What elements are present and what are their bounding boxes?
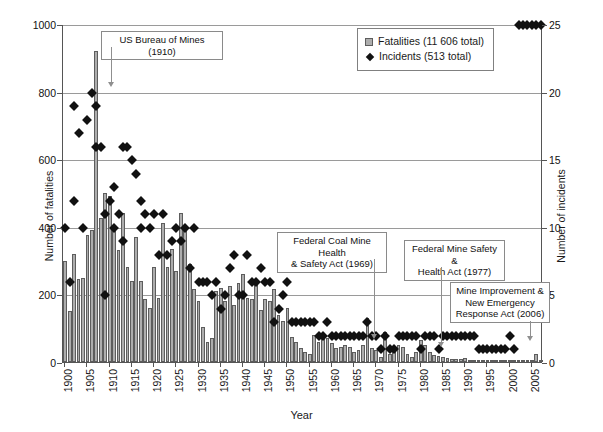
left-axis-tick-mark	[57, 160, 62, 161]
x-axis-tick-mark	[198, 363, 199, 367]
bar	[406, 354, 410, 362]
bar	[374, 350, 378, 362]
x-axis-tick-label: 1945	[262, 369, 274, 392]
data-point-marker	[145, 223, 155, 233]
left-axis-tick-mark	[57, 363, 62, 364]
x-axis-tick-label: 1985	[440, 369, 452, 392]
bar	[250, 299, 254, 362]
x-axis-tick-mark	[398, 363, 399, 367]
data-point-marker	[131, 169, 141, 179]
data-point-marker	[380, 331, 390, 341]
bar	[352, 352, 356, 362]
bar	[174, 271, 178, 362]
legend-item-incidents: Incidents (513 total)	[365, 49, 484, 64]
x-axis-tick-mark	[286, 363, 287, 367]
x-axis-tick-mark	[264, 363, 265, 367]
bar	[68, 311, 72, 362]
bar	[134, 237, 138, 362]
bar	[379, 357, 383, 362]
data-point-marker	[189, 223, 199, 233]
bar	[299, 348, 303, 362]
data-point-marker	[158, 209, 168, 219]
data-point-marker	[509, 345, 519, 355]
bar	[494, 360, 498, 362]
data-point-marker	[278, 290, 288, 300]
x-axis-tick-label: 1925	[173, 369, 185, 392]
bar	[81, 278, 85, 363]
data-point-marker	[211, 277, 221, 287]
data-point-marker	[118, 236, 128, 246]
bar	[210, 338, 214, 362]
left-axis-title-wrap: Number of fatalities	[0, 0, 22, 432]
bar	[246, 298, 250, 362]
data-point-marker	[136, 196, 146, 206]
bar	[228, 286, 232, 362]
annotation-leader-line	[374, 259, 375, 335]
bar	[477, 360, 481, 362]
right-axis-title: Number of incidents	[554, 169, 566, 262]
bar	[286, 308, 290, 362]
annotation-arrow-icon	[527, 336, 533, 341]
x-axis-tick-label: 1950	[284, 369, 296, 392]
bar	[86, 235, 90, 362]
x-axis-tick-mark	[153, 363, 154, 367]
bar	[294, 342, 298, 362]
left-axis-tick-mark	[57, 228, 62, 229]
bar	[414, 352, 418, 362]
bar	[99, 218, 103, 362]
bar	[192, 289, 196, 362]
right-axis-tick-label: 25	[549, 19, 561, 31]
bar	[503, 360, 507, 362]
bar	[441, 357, 445, 362]
x-axis-tick-label: 1940	[240, 369, 252, 392]
x-axis-tick-mark	[420, 363, 421, 367]
data-point-marker	[127, 155, 137, 165]
bar	[268, 301, 272, 362]
bar	[508, 360, 512, 362]
left-axis-tick-mark	[57, 25, 62, 26]
bar	[290, 337, 294, 362]
bar	[166, 267, 170, 362]
bar	[463, 358, 467, 362]
bar	[410, 357, 414, 362]
data-point-marker	[167, 236, 177, 246]
x-axis-tick-label: 1960	[329, 369, 341, 392]
data-point-marker	[362, 317, 372, 327]
bar	[183, 227, 187, 362]
bar	[468, 360, 472, 362]
bar	[521, 360, 525, 362]
right-axis-tick-mark	[542, 93, 547, 94]
right-axis-title-wrap: Number of incidents	[581, 0, 603, 432]
bar	[361, 345, 365, 362]
bar	[499, 360, 503, 362]
bar	[112, 229, 116, 363]
bar	[437, 356, 441, 362]
bar	[343, 345, 347, 362]
data-point-marker	[74, 128, 84, 138]
bar	[157, 298, 161, 362]
bar	[539, 360, 543, 362]
bar	[152, 267, 156, 362]
x-axis-tick-mark	[64, 363, 65, 367]
x-axis-tick-label: 1955	[307, 369, 319, 392]
data-point-marker	[505, 331, 515, 341]
gridline	[63, 228, 541, 229]
bar	[108, 196, 112, 362]
bar	[388, 354, 392, 362]
left-axis-tick-label: 200	[38, 289, 56, 301]
bar	[446, 358, 450, 362]
bar	[490, 360, 494, 362]
data-point-marker	[69, 101, 79, 111]
bar	[148, 308, 152, 362]
data-point-marker	[69, 196, 79, 206]
bar	[432, 355, 436, 362]
x-axis-tick-mark	[131, 363, 132, 367]
right-axis-tick-label: 10	[549, 222, 561, 234]
x-axis-tick-mark	[109, 363, 110, 367]
bar	[94, 51, 98, 362]
data-point-marker	[225, 263, 235, 273]
bar	[214, 291, 218, 362]
x-axis-tick-label: 1965	[351, 369, 363, 392]
bar	[126, 267, 130, 362]
bar	[357, 350, 361, 362]
